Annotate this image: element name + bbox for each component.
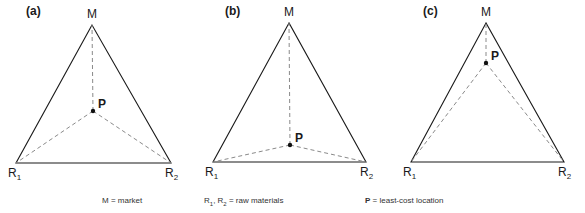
legend-least-cost: P = least-cost location bbox=[365, 196, 444, 205]
panel-label-a: (a) bbox=[26, 4, 41, 18]
vertex-label-r1-sub: 1 bbox=[17, 173, 22, 182]
legend-market-text: M = market bbox=[102, 196, 142, 205]
triangle-outline bbox=[411, 23, 564, 162]
panel-a: (a)MR1R2P bbox=[8, 4, 179, 182]
vertex-label-r2: R2 bbox=[360, 165, 374, 181]
vertex-label-p: P bbox=[98, 97, 106, 111]
vertex-label-r1: R1 bbox=[403, 165, 417, 181]
legend-raw-text: = raw materials bbox=[227, 196, 284, 205]
panel-b: (b)MR1R2P bbox=[205, 4, 374, 181]
vertex-label-r1-sub: 1 bbox=[412, 172, 417, 181]
vertex-label-r2: R2 bbox=[165, 166, 179, 182]
dashed-line-to-market bbox=[92, 25, 93, 111]
vertex-label-m: M bbox=[87, 7, 97, 21]
vertex-label-r2-sub: 2 bbox=[369, 172, 374, 181]
vertex-label-p: P bbox=[295, 131, 303, 145]
vertex-label-r1-sub: 1 bbox=[214, 172, 219, 181]
legend-market: M = market bbox=[102, 196, 142, 205]
least-cost-point bbox=[484, 61, 488, 65]
vertex-label-p: P bbox=[491, 49, 499, 63]
panel-label-c: (c) bbox=[423, 4, 438, 18]
legend-r2: , R bbox=[213, 196, 223, 205]
vertex-label-r2-sub: 2 bbox=[174, 173, 179, 182]
least-cost-point bbox=[91, 109, 95, 113]
dashed-line-to-r1 bbox=[411, 63, 486, 162]
panel-c: (c)MR1R2P bbox=[403, 4, 572, 181]
legend-p-text: = least-cost location bbox=[370, 196, 443, 205]
vertex-label-r2: R2 bbox=[558, 165, 572, 181]
legend-raw-materials: R1, R2 = raw materials bbox=[204, 196, 283, 207]
dashed-line-to-r2 bbox=[486, 63, 564, 162]
least-cost-point bbox=[288, 143, 292, 147]
vertex-label-r1: R1 bbox=[8, 166, 22, 182]
dashed-line-to-r2 bbox=[93, 111, 171, 163]
triangle-outline bbox=[16, 25, 171, 163]
location-triangles-figure: (a)MR1R2P(b)MR1R2P(c)MR1R2P bbox=[0, 0, 585, 213]
dashed-line-to-r2 bbox=[290, 145, 366, 162]
vertex-label-m: M bbox=[284, 5, 294, 19]
vertex-label-r2-sub: 2 bbox=[567, 172, 572, 181]
dashed-line-to-r1 bbox=[16, 111, 93, 163]
vertex-label-m: M bbox=[481, 5, 491, 19]
dashed-line-to-r1 bbox=[213, 145, 290, 162]
panel-label-b: (b) bbox=[225, 4, 240, 18]
vertex-label-r1: R1 bbox=[205, 165, 219, 181]
dashed-line-to-market bbox=[289, 23, 290, 145]
